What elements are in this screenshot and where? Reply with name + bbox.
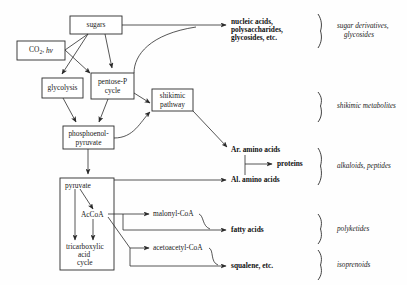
box-sugars-label: sugars: [87, 20, 106, 29]
edge-co2-cross: [65, 34, 88, 50]
box-glycolysis-label: glycolysis: [48, 83, 78, 92]
label-pyruvate: pyruvate: [65, 181, 92, 190]
box-shikimic-label-line1: shikimic: [160, 91, 186, 100]
product-nucleic-acids: nucleic acids, polysaccharides, glycosid…: [231, 17, 283, 42]
box-glycolysis: glycolysis: [42, 78, 83, 98]
brace-shikimic-metabolites: [318, 92, 321, 122]
box-pentose-label-line1: pentose-P: [98, 77, 127, 86]
edge-shikimic-to-ar-amino-acids: [193, 111, 227, 147]
product-nucleic-acids-line-3: glycosides, etc.: [231, 33, 277, 42]
product-acetoacetyl-coa: acetoacetyl-CoA: [153, 243, 203, 252]
class-label-isoprenoids: isoprenoids: [337, 261, 370, 269]
product-ar-amino-acids: Ar. amino acids: [231, 145, 280, 154]
box-co2-label: CO2, hv: [29, 45, 53, 54]
class-label-alkaloids-peptides: alkaloids, peptides: [337, 162, 391, 170]
box-pyruvate-tca: pyruvate AcCoA tricarboxylic acid cycle: [60, 178, 114, 270]
edge-pep-to-shikimic: [114, 112, 150, 138]
brace-polyketides: [318, 214, 321, 244]
box-pentose-label-line2: cycle: [105, 86, 121, 95]
edge-acetoacetyl-join-squalene: [209, 248, 218, 265]
pathway-svg: sugars CO2, hv glycolysis pentose-P cycl…: [0, 0, 407, 285]
biosynthesis-pathway-diagram: sugars CO2, hv glycolysis pentose-P cycl…: [0, 0, 407, 285]
edge-glycolysis-to-pep: [63, 98, 76, 122]
box-shikimic-pathway: shikimic pathway: [152, 89, 193, 111]
label-tca-line3: cycle: [77, 258, 93, 267]
class-group-sugar-derivatives: sugar derivatives, glycosides: [318, 14, 389, 48]
brace-isoprenoids: [318, 250, 321, 280]
class-label-polyketides: polyketides: [336, 225, 370, 233]
edge-pentose-to-pep: [99, 99, 108, 122]
class-group-alkaloids-peptides: alkaloids, peptides: [318, 148, 391, 185]
box-co2: CO2, hv: [17, 41, 65, 60]
edge-amino-acids-to-proteins: [245, 155, 272, 164]
box-pep-label-line2: pyruvate: [76, 138, 103, 147]
edge-malonyl-join-fatty-acids: [199, 214, 210, 229]
brace-sugar-derivatives: [318, 14, 321, 48]
class-group-polyketides: polyketides: [318, 214, 370, 244]
box-pep-label-line1: phosphoenol-: [68, 129, 109, 138]
class-label-sugar-derivatives-line-1: sugar derivatives,: [337, 22, 389, 30]
product-al-amino-acids: Al. amino acids: [231, 175, 280, 184]
class-label-shikimic-metabolites: shikimic metabolites: [337, 102, 396, 110]
product-squalene: squalene, etc.: [231, 261, 273, 270]
product-malonyl-coa: malonyl-CoA: [153, 209, 194, 218]
product-fatty-acids: fatty acids: [231, 225, 264, 234]
class-label-sugar-derivatives-line-2: glycosides: [344, 31, 374, 39]
edge-sugars-to-pentose: [105, 34, 112, 68]
product-proteins: proteins: [277, 159, 303, 168]
edge-pentose-to-nucleic-acids: [134, 27, 196, 73]
label-accoa: AcCoA: [81, 210, 104, 219]
class-group-isoprenoids: isoprenoids: [318, 250, 370, 280]
edge-pentose-to-shikimic: [134, 93, 150, 103]
box-shikimic-label-line2: pathway: [160, 100, 185, 109]
box-phosphoenolpyruvate: phosphoenol- pyruvate: [63, 126, 114, 149]
edge-co2-to-pentose: [65, 50, 90, 73]
box-pentose-p-cycle: pentose-P cycle: [91, 73, 134, 99]
box-sugars: sugars: [70, 16, 122, 34]
brace-alkaloids-peptides: [318, 148, 321, 185]
class-group-shikimic-metabolites: shikimic metabolites: [318, 92, 396, 122]
